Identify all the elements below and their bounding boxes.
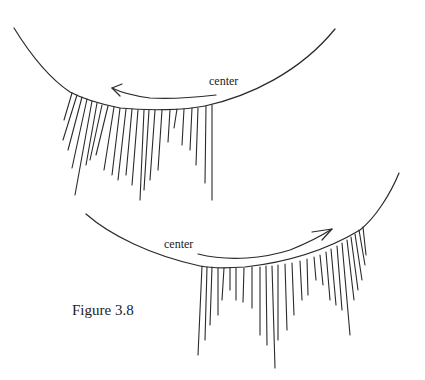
- eyelash-line: [196, 108, 198, 165]
- arrow-left-icon: [112, 88, 216, 98]
- eyelash-line: [168, 110, 170, 142]
- eyelash-line: [300, 261, 302, 300]
- arrow-right-icon: [198, 229, 332, 258]
- eyelash-line: [266, 266, 267, 345]
- eyelash-line: [307, 259, 308, 295]
- bottom-eye-group: [86, 173, 399, 368]
- eyelash-line: [314, 257, 316, 280]
- bottom-eyelid-curve: [86, 173, 399, 268]
- eyelash-line: [320, 255, 323, 285]
- eyelash-line: [174, 109, 177, 128]
- eyelash-line: [337, 246, 342, 310]
- eyelash-line: [222, 268, 224, 300]
- eyelash-line: [112, 108, 120, 175]
- eyelash-line: [363, 227, 366, 255]
- eyelash-line: [205, 106, 206, 183]
- eyelash-line: [68, 97, 82, 150]
- eyelash-line: [140, 110, 144, 200]
- eyelash-line: [118, 109, 126, 180]
- top-eyelid-curve: [14, 28, 335, 110]
- eyelash-line: [205, 267, 207, 340]
- eyelash-line: [150, 110, 155, 180]
- eyelash-line: [326, 252, 330, 300]
- eyelash-line: [190, 108, 192, 150]
- eyelash-diagram: [0, 0, 425, 380]
- eyelash-line: [331, 249, 336, 305]
- eyelash-line: [72, 99, 87, 168]
- eyelash-line: [272, 266, 275, 368]
- top-eye-group: [14, 28, 335, 200]
- eyelash-line: [285, 264, 287, 330]
- bottom-lashes: [198, 227, 366, 368]
- eyelash-line: [210, 267, 212, 325]
- eyelash-line: [132, 110, 138, 185]
- bottom-center-label: center: [164, 237, 193, 252]
- eyelash-line: [182, 109, 184, 145]
- eyelash-line: [292, 263, 294, 315]
- eyelash-line: [126, 109, 132, 175]
- figure-caption: Figure 3.8: [72, 302, 134, 319]
- eyelash-line: [144, 110, 149, 190]
- eyelash-line: [158, 110, 162, 170]
- eyelash-line: [96, 106, 108, 155]
- top-center-label: center: [209, 74, 238, 89]
- eyelash-line: [198, 266, 202, 355]
- eyelash-line: [243, 268, 244, 302]
